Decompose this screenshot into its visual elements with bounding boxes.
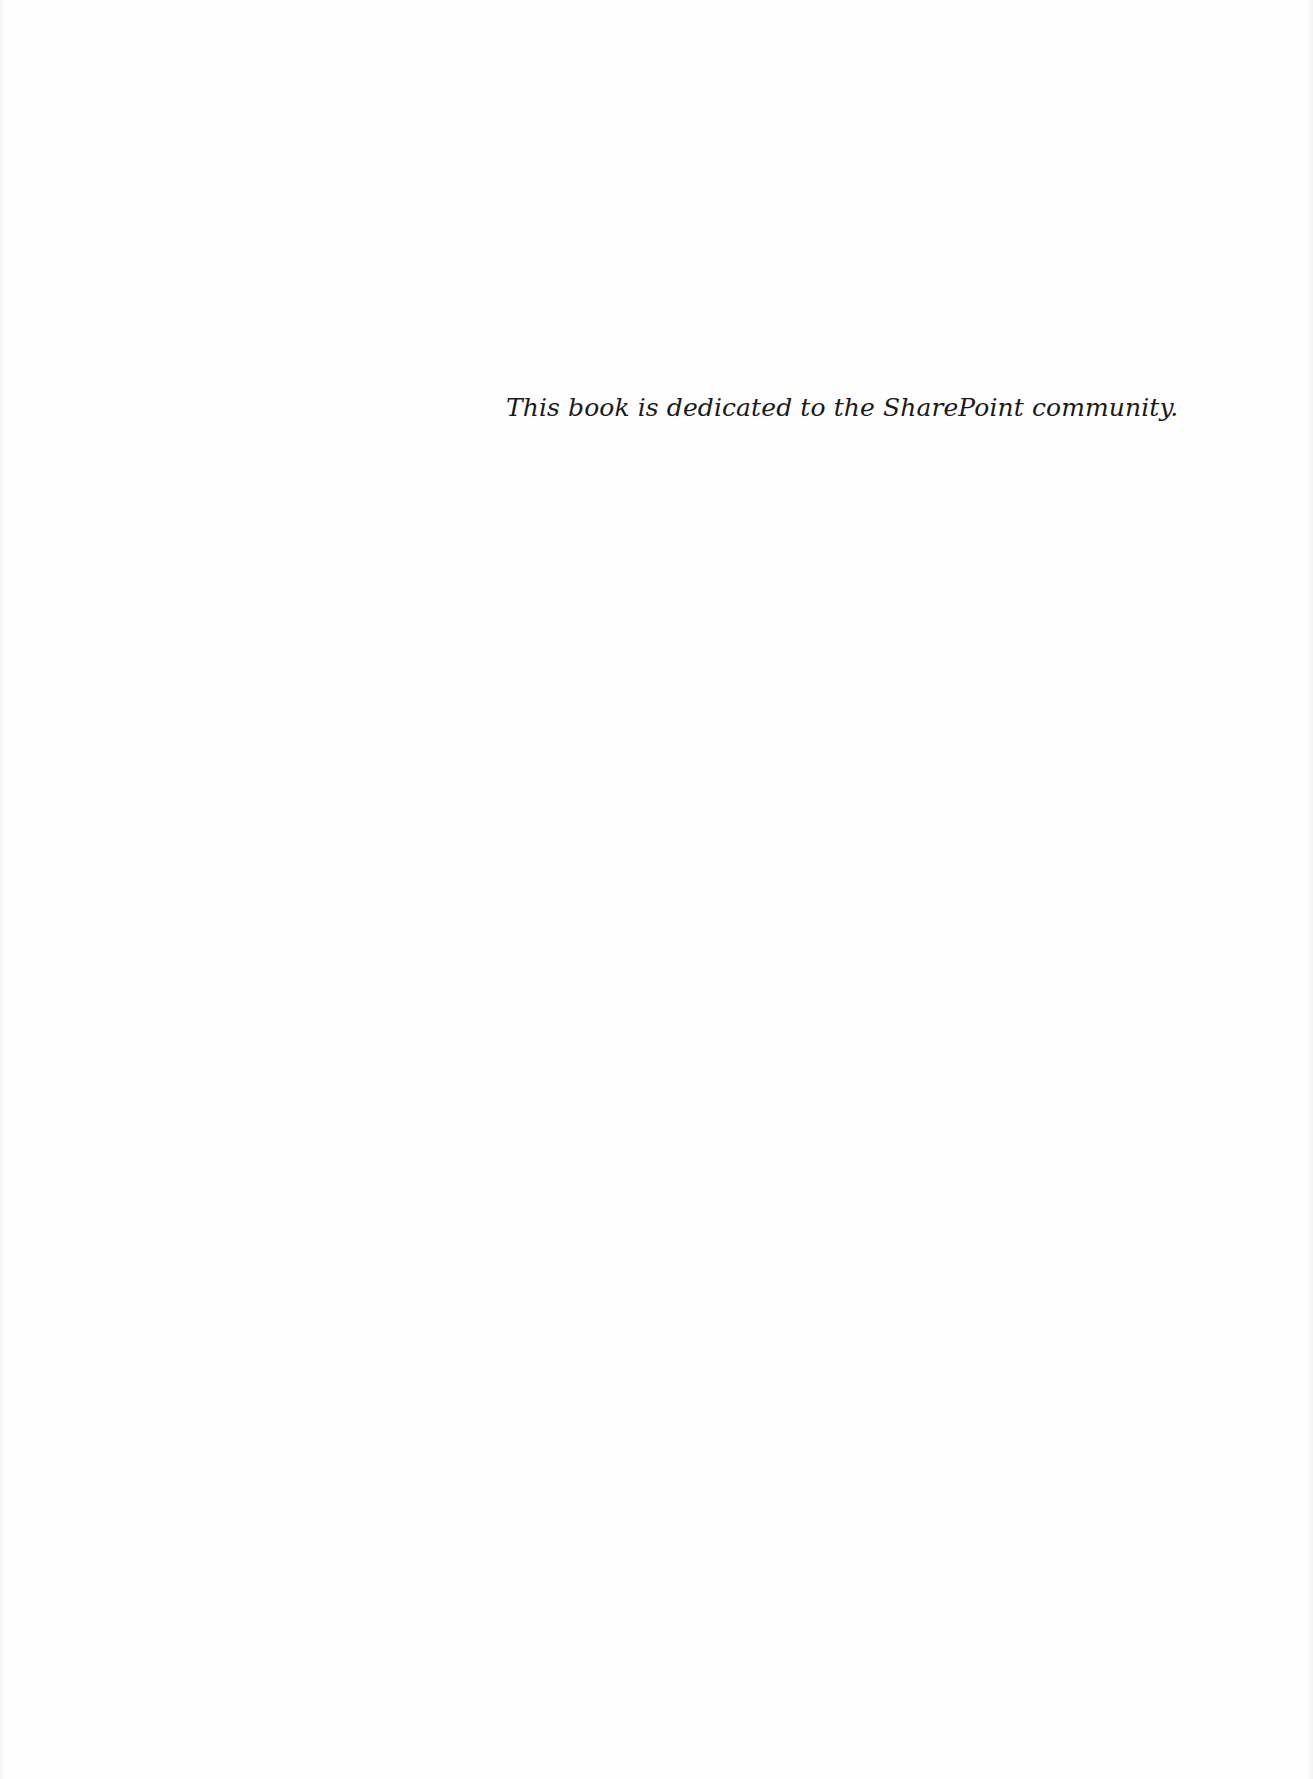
- page-edge-left: [0, 0, 4, 1779]
- dedication-text: This book is dedicated to the SharePoint…: [506, 392, 1166, 424]
- book-page: This book is dedicated to the SharePoint…: [0, 0, 1313, 1779]
- page-edge-right: [1307, 0, 1313, 1779]
